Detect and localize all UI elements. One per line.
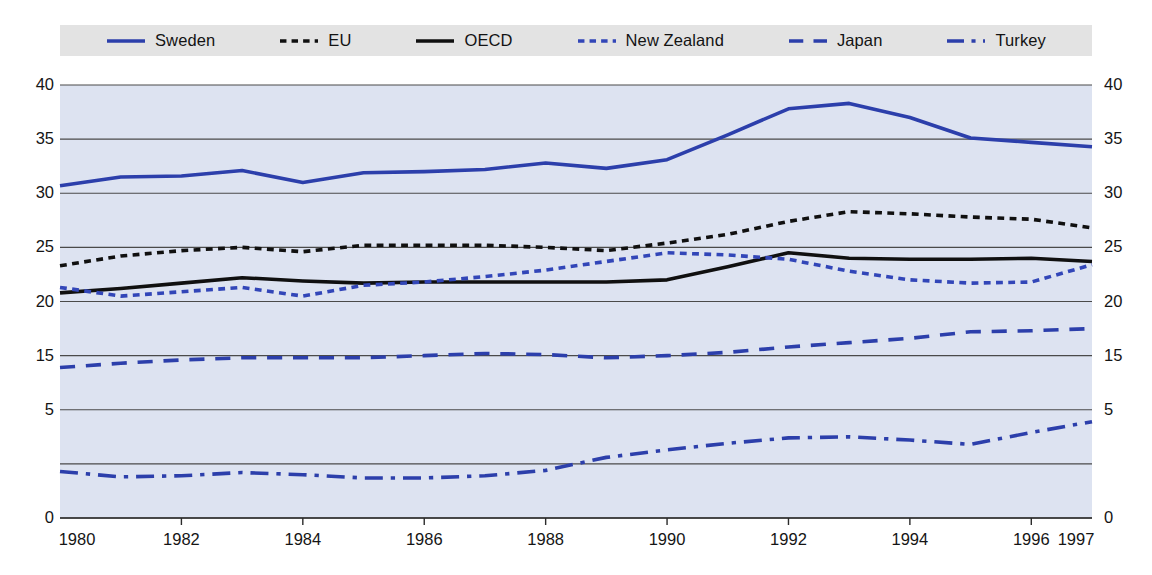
plot-area bbox=[0, 0, 1152, 575]
chart-container: SwedenEUOECDNew ZealandJapanTurkey 40353… bbox=[0, 0, 1152, 575]
